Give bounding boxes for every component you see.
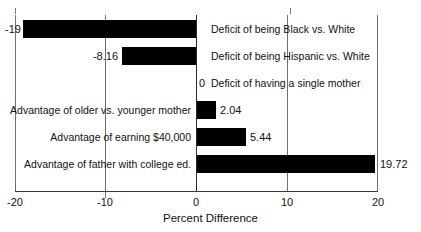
bar-deficit-hispanic-vs-white xyxy=(122,47,196,65)
bar-value-label: 2.04 xyxy=(220,101,241,119)
plot-area: -19 Deficit of being Black vs. White -8.… xyxy=(15,15,378,192)
bar-value-label: -19 xyxy=(0,20,21,38)
chart-row: -19 Deficit of being Black vs. White xyxy=(15,20,378,38)
x-axis-title: Percent Difference xyxy=(0,212,421,224)
bar-category-label: Deficit of being Black vs. White xyxy=(211,20,355,38)
tick-stub-top-zero xyxy=(290,8,291,14)
bar-value-label: 0 xyxy=(199,74,205,92)
chart-row: 19.72 Advantage of father with college e… xyxy=(15,155,378,173)
chart-row: -8.16 Deficit of being Hispanic vs. Whit… xyxy=(15,47,378,65)
bar-category-label: Deficit of having a single mother xyxy=(211,74,360,92)
x-tick-label-plus10: 10 xyxy=(281,196,293,208)
chart-row: 5.44 Advantage of earning $40,000 xyxy=(15,128,378,146)
chart-row: 2.04 Advantage of older vs. younger moth… xyxy=(15,101,378,119)
bar-category-label: Advantage of earning $40,000 xyxy=(5,128,191,146)
x-tick-label-zero: 0 xyxy=(193,196,199,208)
bar-category-label: Advantage of father with college ed. xyxy=(5,155,191,173)
bar-value-label: 19.72 xyxy=(380,155,408,173)
bar-deficit-black-vs-white xyxy=(23,20,196,38)
chart-row: 0 Deficit of having a single mother xyxy=(15,74,378,92)
x-tick-label-plus20: 20 xyxy=(372,196,384,208)
bar-advantage-older-mother xyxy=(197,101,216,119)
bar-advantage-father-college xyxy=(197,155,375,173)
x-tick-label-minus20: -20 xyxy=(7,196,23,208)
x-axis-line xyxy=(15,191,378,192)
bar-category-label: Deficit of being Hispanic vs. White xyxy=(211,47,370,65)
bar-value-label: 5.44 xyxy=(250,128,271,146)
bar-value-label: -8.16 xyxy=(78,47,118,65)
bar-category-label: Advantage of older vs. younger mother xyxy=(5,101,191,119)
tick-stub-top-minus20 xyxy=(15,8,16,14)
x-tick-label-minus10: -10 xyxy=(97,196,113,208)
bar-advantage-earning-40000 xyxy=(197,128,246,146)
bar-chart-figure: -19 Deficit of being Black vs. White -8.… xyxy=(0,0,421,232)
